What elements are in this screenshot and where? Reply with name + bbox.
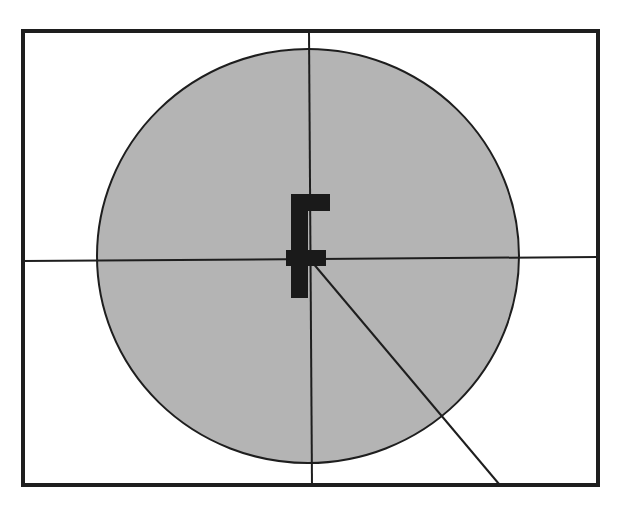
f-marker-part-1: [291, 194, 330, 211]
f-marker-part-2: [286, 250, 326, 266]
target-diagram: [0, 0, 623, 508]
